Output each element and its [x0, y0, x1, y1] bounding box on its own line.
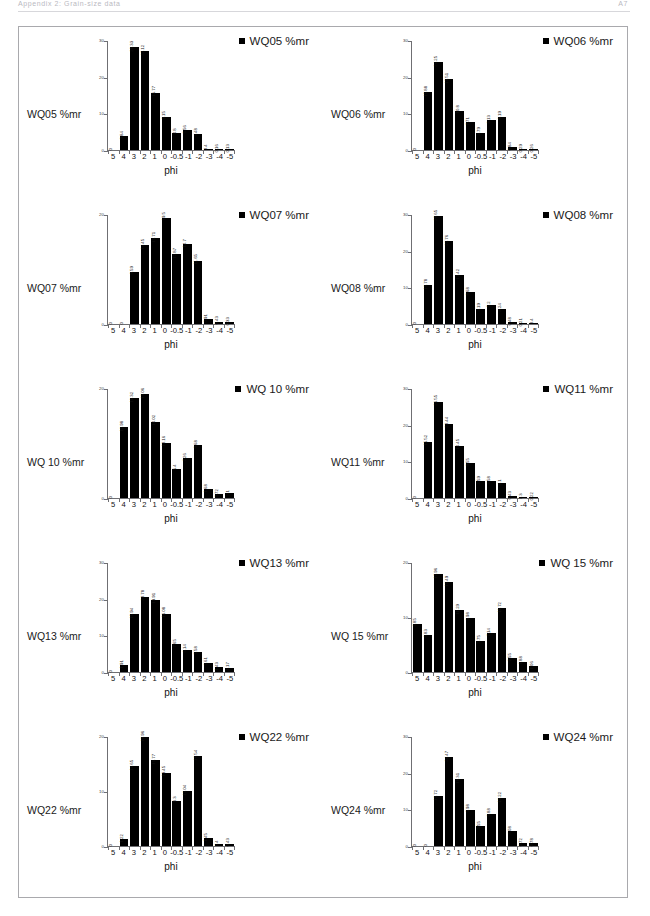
x-axis-title: phi [411, 861, 539, 872]
x-axis-tick-label: -1 [487, 848, 497, 857]
bar-cell: 5.55 [475, 737, 486, 846]
bar-cell: 0 [119, 215, 130, 324]
bar-value-label: 4.48 [194, 129, 198, 137]
bar-cell: 1.88 [518, 563, 529, 672]
bar: 4.59 [476, 481, 485, 498]
bar: 18.31 [455, 779, 464, 846]
y-axis-label: WQ05 %mr [27, 108, 81, 120]
x-axis-tick-label: 3 [433, 848, 443, 857]
y-axis-tick-label: 20 [403, 75, 408, 79]
x-axis-tick-label: -3 [508, 848, 518, 857]
y-axis-label: WQ 10 %mr [27, 456, 84, 468]
y-axis-tick-label: 20 [403, 561, 408, 565]
x-axis-tick-label: 0 [464, 152, 474, 161]
y-axis-tick-label: 10 [99, 634, 104, 638]
bar: 0.21 [519, 323, 528, 324]
legend-label: WQ24 %mr [554, 731, 613, 743]
bar: 10.04 [183, 791, 192, 846]
bar: 13.22 [498, 798, 507, 846]
bar-cell: 16.54 [193, 737, 204, 846]
bar-value-label: 3.84 [120, 131, 124, 139]
bar-cell: 13.42 [454, 215, 465, 324]
plot-area: 020009.5914.4515.7119.512.8714.711.650.9… [107, 215, 235, 325]
bar: 11.29 [455, 610, 464, 672]
bar-cell: 0 [108, 737, 119, 846]
bar: 16.54 [194, 756, 203, 846]
bar-value-label: 14.02 [151, 415, 155, 426]
bar-cell: 0.22 [528, 389, 539, 498]
x-axis-tick-label: 1 [453, 326, 463, 335]
bar-value-label: 20.44 [445, 417, 449, 428]
bar-value-label: 0.78 [529, 838, 533, 846]
x-axis-tick-label: 0 [464, 326, 474, 335]
bar-cell: 0.21 [518, 215, 529, 324]
y-axis-tick-label: 10 [403, 286, 408, 290]
bar-cell: 11.29 [454, 563, 465, 672]
x-axis-tick-label: -0.5 [170, 152, 183, 161]
x-axis-tick-label: -0.5 [170, 500, 183, 509]
x-axis-tick-label: -5 [225, 674, 235, 683]
bar-cell: 8.68 [465, 215, 476, 324]
bar: 5.2 [487, 305, 496, 324]
bar-value-label: 15.52 [424, 435, 428, 446]
bar: 28.33 [130, 47, 139, 150]
x-axis-title: phi [107, 861, 235, 872]
bar-series: 015.5226.5520.4414.459.554.594.584.10.43… [412, 389, 539, 498]
bar: 1.43 [215, 667, 224, 672]
bar: 0.48 [508, 322, 517, 324]
x-axis-tick-label: 5 [108, 326, 118, 335]
x-axis-tick-label: -5 [529, 674, 539, 683]
chart-panel: WQ13 %mrWQ13 %mr010203001.9115.9420.7819… [19, 549, 323, 723]
bar-cell: 19.5 [161, 215, 172, 324]
bar: 14.45 [141, 245, 150, 324]
bar: 4.24 [498, 309, 507, 324]
y-axis-tick-label: 0 [406, 497, 408, 501]
bar: 1.68 [204, 489, 213, 498]
x-axis-tick-label: -2 [498, 500, 508, 509]
x-axis-tick-label: 3 [129, 674, 139, 683]
bar: 8.68 [466, 292, 475, 324]
bar: 0.72 [519, 843, 528, 846]
bar: 7.26 [183, 458, 192, 498]
bar-value-label: 0 [413, 148, 417, 150]
x-axis-tick-label: -1 [183, 326, 193, 335]
bar-cell: 0 [108, 563, 119, 672]
bar: 14.45 [455, 446, 464, 499]
bar-value-label: 13.72 [434, 790, 438, 801]
x-axis-tick-label: 5 [108, 500, 118, 509]
bar: 6.14 [183, 650, 192, 672]
bar-value-label: 0 [413, 844, 417, 846]
chart-panel: WQ07 %mrWQ07 %mr020009.5914.4515.7119.51… [19, 201, 323, 375]
bar: 14.65 [130, 766, 139, 846]
bar-value-label: 4.24 [498, 303, 502, 311]
bar-value-label: 0 [413, 322, 417, 324]
x-axis-title: phi [411, 687, 539, 698]
x-axis-tick-label: -3 [508, 326, 518, 335]
bar-value-label: 7.71 [466, 117, 470, 125]
x-axis-tick-label: -2 [194, 848, 204, 857]
bar-value-label: 22.76 [445, 235, 449, 246]
bar-value-label: 9.19 [498, 111, 502, 119]
y-axis-tick-label: 30 [99, 39, 104, 43]
bar: 13.42 [455, 275, 464, 324]
bar-cell: 4.24 [497, 215, 508, 324]
x-axis-tick-label: 4 [422, 152, 432, 161]
bar-cell: 2.61 [203, 563, 214, 672]
y-axis-tick-label: 0 [102, 149, 104, 153]
bar: 6.83 [424, 635, 433, 672]
bar-value-label: 8.13 [487, 115, 491, 123]
chart-panel: WQ 15 %mrWQ 15 %mr010208.856.8317.9616.4… [323, 549, 627, 723]
bar-cell: 28.33 [129, 41, 140, 150]
bar-cell: 15.88 [423, 41, 434, 150]
bar-cell: 10.16 [161, 389, 172, 498]
bar-cell: 8.3 [171, 737, 182, 846]
bar-value-label: 0.4 [215, 840, 219, 846]
x-axis-tick-label: -3 [204, 326, 214, 335]
bar-value-label: 19.51 [445, 73, 449, 84]
bar-value-label: 1 [225, 490, 229, 492]
bar-value-label: 12.98 [120, 421, 124, 432]
bar-value-label: 9.59 [130, 267, 134, 275]
y-axis-tick-label: 10 [403, 808, 408, 812]
bar: 10.78 [424, 285, 433, 324]
bar-cell: 0.13 [224, 41, 235, 150]
